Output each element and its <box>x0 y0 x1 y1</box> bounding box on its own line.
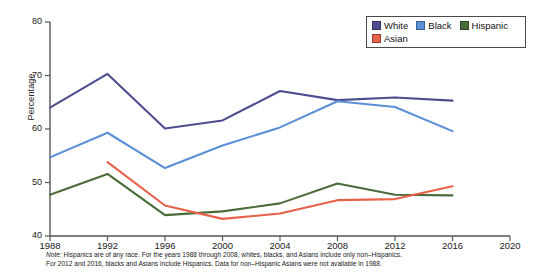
legend-label-hispanic: Hispanic <box>472 20 508 31</box>
legend-label-asian: Asian <box>384 33 408 44</box>
footnote-note-prefix: Note: <box>46 251 62 258</box>
legend-item-black[interactable]: Black <box>416 20 451 31</box>
chart-container: Percentage 8070605040 198819921996200020… <box>0 0 535 276</box>
line-series-white <box>50 74 453 129</box>
footnote-text-1: Hispanics are of any race. For the years… <box>62 251 402 258</box>
line-series-black <box>50 101 453 168</box>
axis-lines <box>45 22 510 241</box>
legend-item-asian[interactable]: Asian <box>372 33 521 44</box>
chart-legend: White Black Hispanic Asian <box>366 16 526 48</box>
legend-label-black: Black <box>428 20 451 31</box>
data-lines <box>50 74 453 219</box>
legend-swatch-asian <box>372 34 381 43</box>
legend-swatch-hispanic <box>460 21 469 30</box>
legend-label-white: White <box>384 20 408 31</box>
footnote-line-1: Note: Hispanics are of any race. For the… <box>46 250 516 259</box>
legend-item-white[interactable]: White <box>372 20 408 31</box>
legend-swatch-white <box>372 21 381 30</box>
chart-footnote: Note: Hispanics are of any race. For the… <box>46 250 516 269</box>
footnote-line-2: For 2012 and 2016, blacks and Asians inc… <box>46 259 516 268</box>
legend-swatch-black <box>416 21 425 30</box>
line-series-hispanic <box>50 174 453 215</box>
legend-item-hispanic[interactable]: Hispanic <box>460 20 508 31</box>
